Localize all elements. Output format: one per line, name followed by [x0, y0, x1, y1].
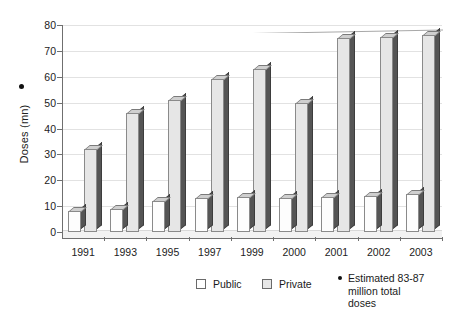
- bar-group: [231, 25, 273, 239]
- x-tick-mark: [273, 237, 274, 241]
- bar-group: [62, 25, 104, 239]
- x-tick-label: 2002: [356, 246, 402, 258]
- bar-front-face: [152, 201, 165, 232]
- bar-side-face: [435, 28, 440, 229]
- x-tick-mark: [315, 237, 316, 241]
- x-tick-mark: [189, 237, 190, 241]
- bar-public-2002: [364, 196, 377, 232]
- bar-side-face: [181, 93, 186, 229]
- bar-chart: Doses (mn) 01020304050607080 19911993199…: [0, 0, 462, 323]
- x-tick-mark: [442, 237, 443, 241]
- x-tick-label: 1997: [187, 246, 233, 258]
- y-tick-label: 70: [30, 46, 56, 56]
- bar-front-face: [406, 194, 419, 232]
- legend-label-private: Private: [279, 278, 312, 290]
- bar-front-face: [237, 197, 250, 232]
- private-swatch-icon: [262, 279, 272, 289]
- x-tick-label: 2001: [313, 246, 359, 258]
- bar-front-face: [168, 100, 181, 232]
- bar-public-1993: [110, 209, 123, 232]
- y-axis-title: Doses (mn): [14, 78, 34, 190]
- bar-front-face: [364, 196, 377, 232]
- note-text: Estimated 83-87 million total doses: [348, 272, 440, 310]
- bar-group: [104, 25, 146, 239]
- x-tick-mark: [146, 237, 147, 241]
- y-tick-label: 50: [30, 98, 56, 108]
- bar-public-1999: [237, 197, 250, 232]
- y-tick-label: 60: [30, 72, 56, 82]
- x-tick-label: 1991: [60, 246, 106, 258]
- bar-side-face: [266, 62, 271, 229]
- bar-private-1993: [126, 113, 139, 232]
- x-tick-label: 1993: [102, 246, 148, 258]
- y-tick-label: 10: [30, 201, 56, 211]
- bar-front-face: [195, 198, 208, 232]
- bar-group: [273, 25, 315, 239]
- bar-series-layer: [62, 25, 442, 239]
- bar-front-face: [337, 38, 350, 232]
- bar-front-face: [295, 103, 308, 232]
- bar-group: [358, 25, 400, 239]
- bar-public-1997: [195, 198, 208, 232]
- x-tick-label: 1995: [145, 246, 191, 258]
- bar-side-face: [139, 106, 144, 229]
- note-line-1: Estimated 83-87: [348, 272, 424, 284]
- note-bullet-icon: [338, 276, 342, 280]
- x-tick-mark: [400, 237, 401, 241]
- legend-item-public[interactable]: Public: [196, 278, 242, 290]
- bar-public-1995: [152, 201, 165, 232]
- legend: Public Private Estimated 83-87 million t…: [0, 272, 462, 322]
- bar-side-face: [393, 30, 398, 229]
- public-swatch-icon: [196, 279, 206, 289]
- note-line-2: million total: [348, 285, 401, 297]
- y-tick-label: 40: [30, 124, 56, 134]
- bar-side-face: [308, 96, 313, 229]
- legend-note: Estimated 83-87 million total doses: [338, 272, 440, 310]
- x-tick-label: 1999: [229, 246, 275, 258]
- bar-public-1991: [68, 211, 81, 232]
- bar-public-2003: [406, 194, 419, 232]
- bar-front-face: [68, 211, 81, 232]
- y-tick-label: 20: [30, 175, 56, 185]
- x-tick-label: 2000: [271, 246, 317, 258]
- bar-public-2000: [279, 198, 292, 232]
- y-axis-title-label: Doses (mn): [18, 105, 30, 164]
- x-tick-mark: [231, 237, 232, 241]
- y-tick-label: 30: [30, 149, 56, 159]
- bar-private-1995: [168, 100, 181, 232]
- x-tick-mark: [104, 237, 105, 241]
- legend-label-public: Public: [213, 278, 242, 290]
- bar-front-face: [126, 113, 139, 232]
- x-tick-label: 2003: [398, 246, 444, 258]
- bar-front-face: [279, 198, 292, 232]
- bar-side-face: [224, 72, 229, 229]
- bar-private-2000: [295, 103, 308, 232]
- bar-group: [146, 25, 188, 239]
- bar-group: [400, 25, 442, 239]
- x-tick-mark: [358, 237, 359, 241]
- bar-side-face: [97, 142, 102, 229]
- bar-front-face: [110, 209, 123, 232]
- y-tick-label: 0: [30, 227, 56, 237]
- note-line-3: doses: [348, 297, 376, 309]
- bar-side-face: [350, 31, 355, 229]
- bar-public-2001: [321, 197, 334, 232]
- y-tick-label: 80: [30, 20, 56, 30]
- bar-group: [189, 25, 231, 239]
- bar-private-2001: [337, 38, 350, 232]
- bar-front-face: [321, 197, 334, 232]
- bar-group: [315, 25, 357, 239]
- legend-item-private[interactable]: Private: [262, 278, 312, 290]
